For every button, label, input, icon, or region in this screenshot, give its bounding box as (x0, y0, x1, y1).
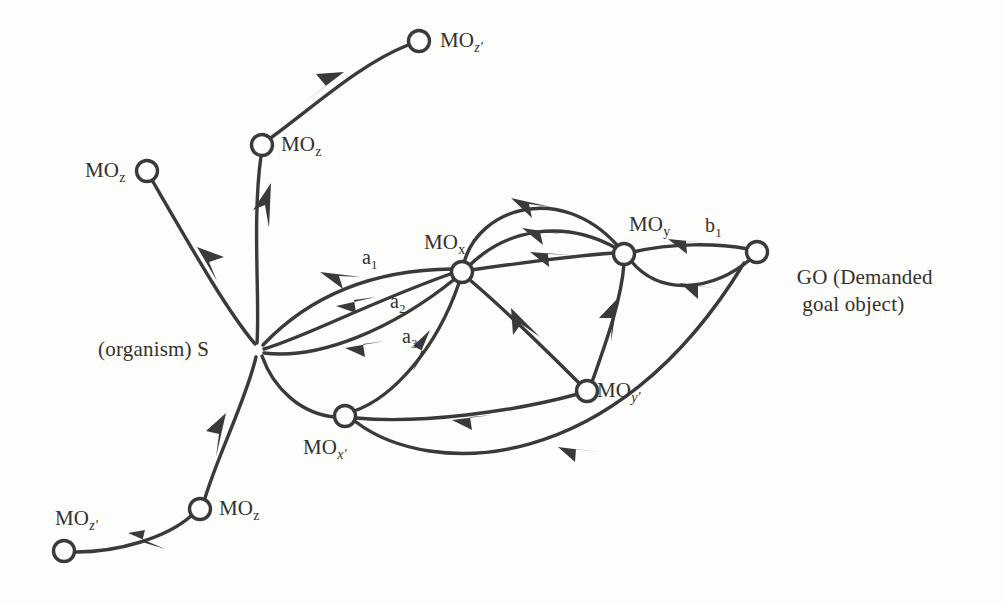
node-mo-y[interactable] (614, 244, 635, 265)
label-organism-s: (organism) S (98, 337, 209, 361)
label-edge-a3: a3 (402, 325, 418, 348)
label-mo-y: MOy (629, 212, 670, 236)
node-mo-z-left[interactable] (137, 161, 158, 182)
arrowhead-moxprime-go (558, 447, 598, 462)
node-mo-x[interactable] (452, 262, 473, 283)
edge-layer (76, 45, 752, 552)
label-mo-x: MOx (424, 230, 465, 254)
label-mo-z-prime-top: MOz' (440, 28, 483, 52)
node-go[interactable] (747, 242, 768, 263)
node-mo-z-prime-top[interactable] (409, 31, 430, 52)
label-mo-x-prime: MOx' (303, 435, 346, 459)
edge-s-to-mox-a3 (264, 278, 456, 354)
edge-s-to-moxprime (262, 356, 335, 417)
label-mo-z-top: MOz (281, 132, 321, 156)
edge-s-to-mox-a1 (263, 269, 452, 345)
edge-mox-to-moyprime (470, 280, 580, 384)
edge-s-to-moz-top (257, 156, 261, 343)
edge-s-to-moz-left (152, 180, 255, 344)
node-mo-z-top[interactable] (252, 135, 273, 156)
edge-moxprime-to-go (356, 263, 744, 453)
edge-moz-to-mozprime (272, 45, 408, 137)
diagram-canvas: MOz' MOz MOz (organism) S MOx MOy GO (De… (0, 0, 1004, 604)
node-layer (54, 31, 768, 562)
node-mo-z-prime-bottom[interactable] (54, 541, 75, 562)
node-mo-x-prime[interactable] (335, 406, 356, 427)
label-edge-a1: a1 (362, 246, 378, 269)
node-mo-y-prime[interactable] (577, 381, 598, 402)
arrowhead-a3 (345, 341, 385, 357)
label-mo-z-prime-bottom: MOz' (55, 506, 98, 530)
label-mo-z-left: MOz (85, 158, 125, 182)
label-edge-b1: b1 (705, 214, 722, 237)
node-mo-z-bottom[interactable] (190, 499, 211, 520)
label-edge-a2: a2 (390, 290, 406, 313)
edge-moy-to-go-b1 (633, 245, 748, 252)
edge-moy-to-moyprime (592, 264, 624, 382)
label-mo-z-bottom: MOz (219, 496, 259, 520)
label-mo-y-prime: MOy' (597, 378, 640, 402)
edge-moxprime-to-moyprime (356, 394, 578, 420)
label-go: GO (Demanded goal object) (775, 238, 933, 343)
